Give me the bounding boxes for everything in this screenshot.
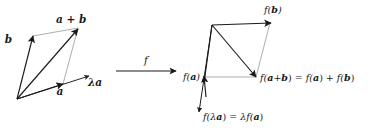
label-lambda-a: λa: [87, 76, 102, 88]
label-f-lambda-a: f(λa) = λf(a): [202, 111, 263, 122]
thin-side-b-to-apb: [33, 28, 78, 36]
label-f-a: f(a): [182, 71, 200, 82]
left-panel-group: b a a + b λa: [5, 13, 103, 99]
vector-f-lambda-a: [199, 25, 212, 112]
label-f-a-plus-b: f(a+b) = f(a) + f(b): [259, 72, 354, 83]
map-arrow-group: f: [116, 54, 176, 71]
diagram-canvas: b a a + b λa f: [0, 0, 375, 130]
vector-lambda-a: [17, 76, 89, 99]
label-a-plus-b: a + b: [56, 13, 86, 25]
label-b: b: [5, 33, 12, 45]
thin-side-fb-to-fapb: [256, 23, 270, 77]
vector-f-a-plus-b: [212, 25, 256, 77]
right-panel-group: f(a) f(b) f(a+b) = f(a) + f(b) f(λa) = λ…: [182, 4, 355, 122]
thin-side-a-to-apb: [63, 28, 78, 84]
label-a: a: [57, 85, 64, 97]
vector-f-b: [212, 23, 271, 25]
linear-map-figure: b a a + b λa f: [0, 0, 375, 130]
label-f-b: f(b): [263, 4, 282, 15]
label-f: f: [143, 54, 150, 66]
